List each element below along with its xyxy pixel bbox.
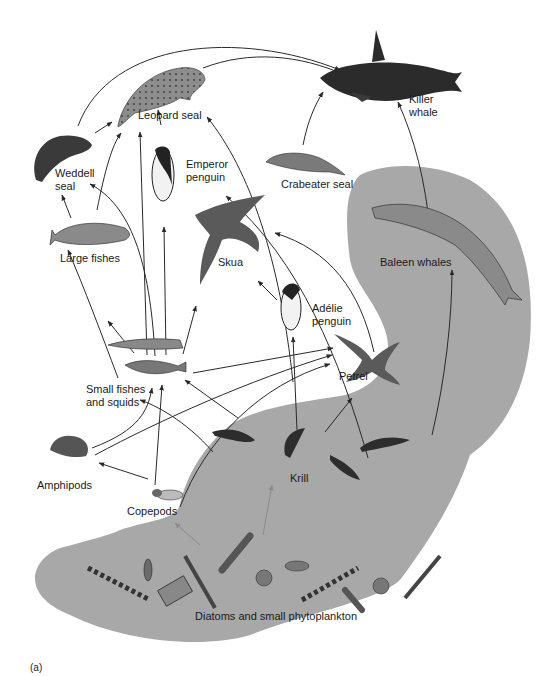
amphipod-icon [50,436,88,457]
label-amphipods: Amphipods [37,479,92,492]
label-killer-whale: Killer whale [409,93,438,119]
label-emperor-penguin: Emperor penguin [186,158,228,184]
panel-label: (a) [30,662,42,673]
copepod-icon [152,489,183,500]
label-krill: Krill [290,472,308,485]
label-skua: Skua [218,256,243,269]
crabeater-seal-icon [266,153,345,175]
label-leopard-seal: Leopard seal [138,109,202,122]
killer-whale-icon [320,30,462,102]
squid-and-fish-icon [108,339,186,374]
label-phytoplankton: Diatoms and small phytoplankton [195,610,357,623]
label-small-fishes-squids: Small fishes and squids [86,383,145,409]
label-large-fishes: Large fishes [60,252,120,265]
label-petrel: Petrel [339,370,368,383]
label-copepods: Copepods [127,505,177,518]
label-baleen-whales: Baleen whales [380,256,452,269]
label-weddell-seal: Weddell seal [55,167,95,193]
skua-icon [195,195,265,285]
large-fish-icon [50,223,130,245]
food-web-diagram [0,0,554,676]
label-crabeater-seal: Crabeater seal [281,178,353,191]
label-adelie-penguin: Adélie penguin [312,302,351,328]
emperor-penguin-icon [152,146,174,201]
adelie-penguin-icon [281,283,301,330]
